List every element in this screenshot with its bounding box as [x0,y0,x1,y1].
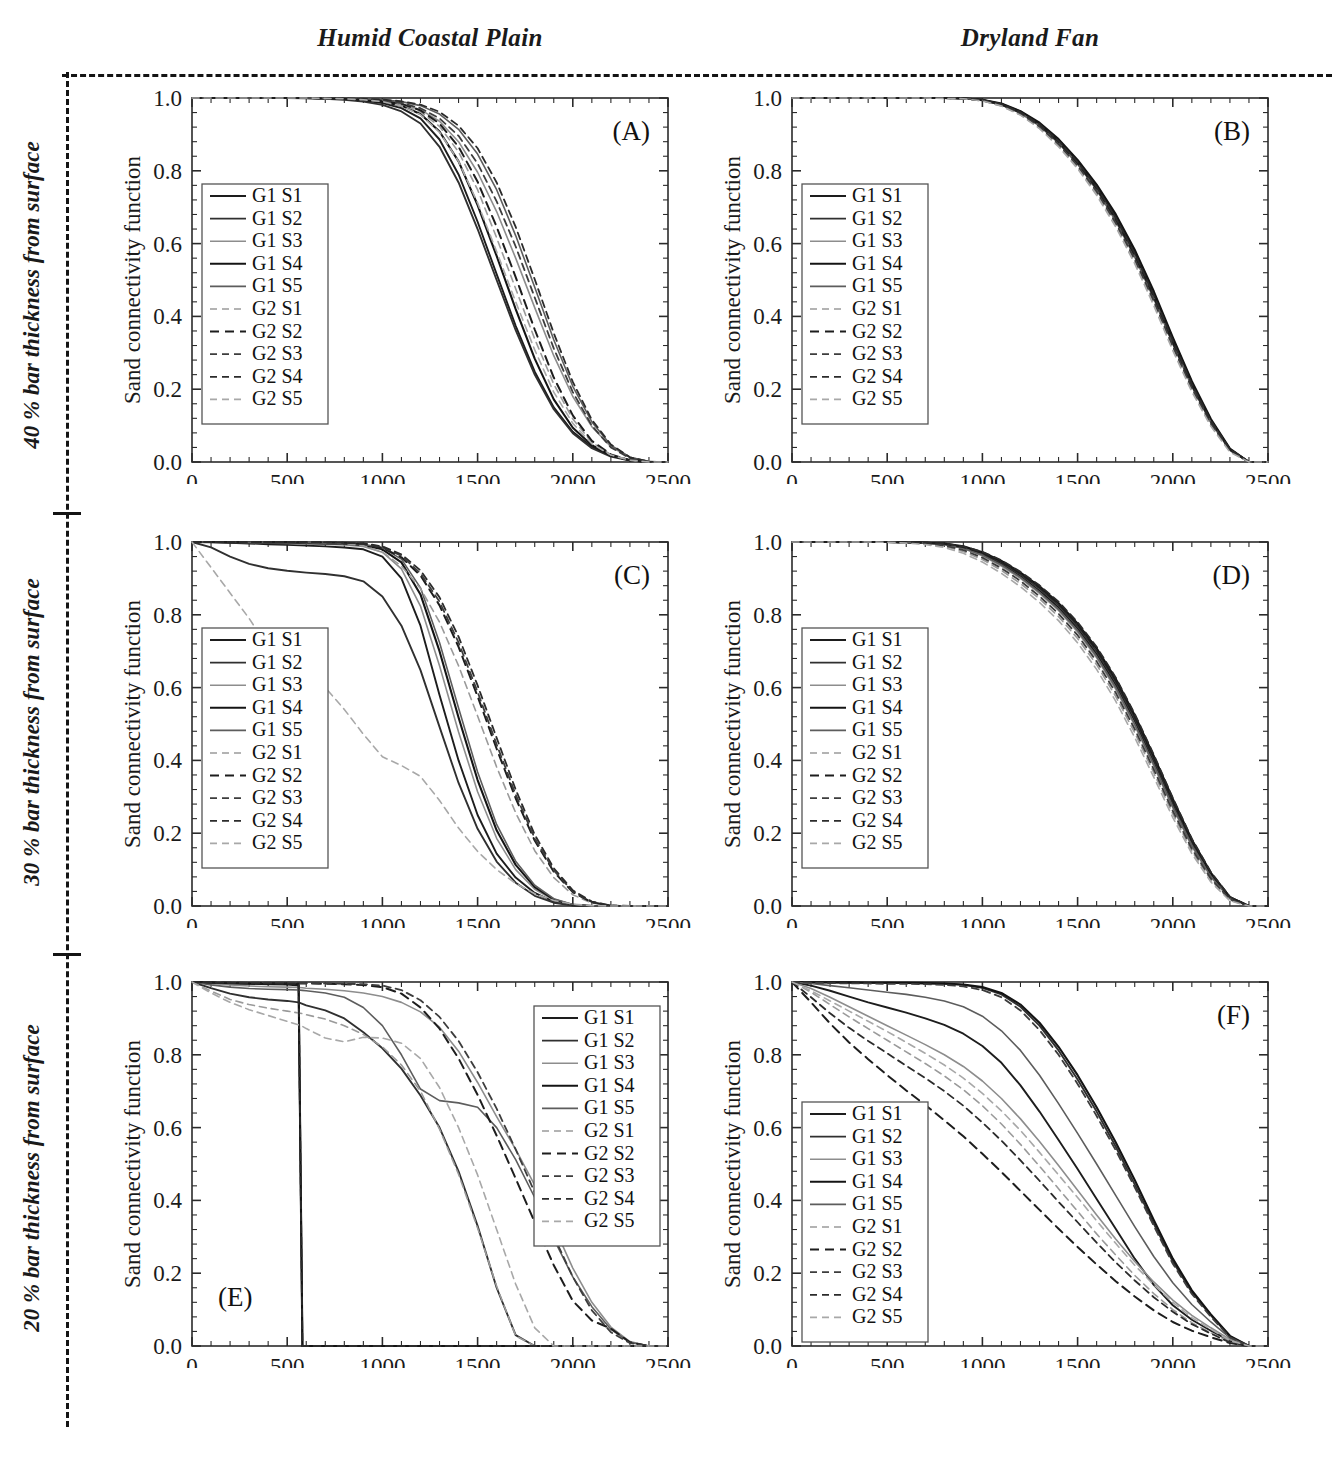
y-tick-label: 0.8 [153,1043,182,1068]
legend-label-g2-s1: G2 S1 [852,297,903,319]
x-tick-label: 2500 [645,1354,691,1368]
divider-tick-row2 [53,953,81,956]
legend: G1 S1G1 S2G1 S3G1 S4G1 S5G2 S1G2 S2G2 S3… [802,628,928,868]
legend-label-g1-s4: G1 S4 [852,1170,903,1192]
y-tick-label: 0.4 [753,304,782,329]
legend-label-g1-s4: G1 S4 [852,696,903,718]
legend-label-g2-s5: G2 S5 [852,1305,903,1327]
chart-svg-c: 050010001500200025000.00.20.40.60.81.0(C… [96,528,696,928]
legend-label-g1-s3: G1 S3 [584,1051,635,1073]
legend-label-g2-s5: G2 S5 [584,1209,635,1231]
legend-label-g2-s4: G2 S4 [584,1187,635,1209]
chart-svg-a: 050010001500200025000.00.20.40.60.81.0(A… [96,84,696,484]
legend-label-g2-s5: G2 S5 [852,831,903,853]
legend-label-g2-s5: G2 S5 [252,831,303,853]
legend-label-g1-s2: G1 S2 [584,1029,635,1051]
row-label-30-percent: 30 % bar thickness from surface [0,516,64,948]
x-tick-label: 0 [186,914,198,928]
y-tick-label: 1.0 [753,86,782,111]
y-axis-title: Sand connectivity function [720,156,745,404]
x-tick-label: 2500 [1245,1354,1291,1368]
y-tick-label: 0.2 [753,377,782,402]
legend-label-g1-s4: G1 S4 [252,252,303,274]
legend-label-g1-s3: G1 S3 [852,1147,903,1169]
legend-label-g1-s3: G1 S3 [852,229,903,251]
legend-label-g1-s5: G1 S5 [852,1192,903,1214]
chart-panel-f: 050010001500200025000.00.20.40.60.81.0(F… [696,968,1296,1368]
legend: G1 S1G1 S2G1 S3G1 S4G1 S5G2 S1G2 S2G2 S3… [802,184,928,424]
y-tick-label: 0.2 [153,821,182,846]
panel-label-e: (E) [218,1282,252,1312]
x-tick-label: 1000 [959,914,1005,928]
legend-label-g2-s2: G2 S2 [252,764,303,786]
y-tick-label: 0.4 [753,748,782,773]
legend-label-g1-s5: G1 S5 [852,718,903,740]
y-tick-label: 0.4 [753,1188,782,1213]
y-tick-label: 0.8 [753,603,782,628]
x-tick-label: 1500 [1055,914,1101,928]
y-tick-label: 0.2 [753,821,782,846]
row-label-20-text: 20 % bar thickness from surface [19,1024,45,1331]
row-label-40-percent: 40 % bar thickness from surface [0,80,64,510]
legend-label-g1-s5: G1 S5 [252,718,303,740]
x-tick-label: 2500 [645,914,691,928]
panel-label-a: (A) [613,116,650,146]
x-tick-label: 2000 [550,914,596,928]
legend-label-g1-s2: G1 S2 [252,207,303,229]
legend-label-g1-s5: G1 S5 [852,274,903,296]
y-tick-label: 0.6 [753,1116,782,1141]
x-tick-label: 2000 [550,1354,596,1368]
x-tick-label: 1000 [959,1354,1005,1368]
y-axis-title: Sand connectivity function [720,1040,745,1288]
legend-label-g1-s4: G1 S4 [252,696,303,718]
legend-label-g2-s2: G2 S2 [852,1238,903,1260]
legend-label-g2-s3: G2 S3 [252,786,303,808]
legend-label-g1-s1: G1 S1 [852,1102,903,1124]
legend-label-g2-s2: G2 S2 [852,320,903,342]
y-tick-label: 0.6 [153,1116,182,1141]
y-tick-label: 0.0 [753,450,782,475]
horizontal-divider-top [62,74,1332,77]
y-tick-label: 0.4 [153,748,182,773]
column-header-humid-coastal-plain: Humid Coastal Plain [190,24,670,58]
legend-label-g1-s1: G1 S1 [852,184,903,206]
legend-label-g1-s4: G1 S4 [584,1074,635,1096]
y-tick-label: 0.4 [153,304,182,329]
legend-label-g2-s3: G2 S3 [852,786,903,808]
x-tick-label: 1500 [455,470,501,484]
legend-label-g2-s1: G2 S1 [852,1215,903,1237]
y-axis-title: Sand connectivity function [120,1040,145,1288]
x-tick-label: 500 [270,470,305,484]
legend-label-g1-s2: G1 S2 [252,651,303,673]
y-tick-label: 0.6 [753,676,782,701]
chart-svg-e: 050010001500200025000.00.20.40.60.81.0(E… [96,968,696,1368]
x-tick-label: 2000 [1150,470,1196,484]
chart-panel-a: 050010001500200025000.00.20.40.60.81.0(A… [96,84,696,484]
x-tick-label: 500 [870,914,905,928]
chart-panel-d: 050010001500200025000.00.20.40.60.81.0(D… [696,528,1296,928]
legend-label-g1-s5: G1 S5 [584,1096,635,1118]
legend-label-g2-s4: G2 S4 [852,809,903,831]
x-tick-label: 0 [786,470,798,484]
y-tick-label: 0.8 [153,603,182,628]
legend: G1 S1G1 S2G1 S3G1 S4G1 S5G2 S1G2 S2G2 S3… [202,628,328,868]
y-tick-label: 0.0 [153,450,182,475]
y-tick-label: 0.6 [753,232,782,257]
row-label-30-text: 30 % bar thickness from surface [19,578,45,885]
y-tick-label: 1.0 [753,970,782,995]
legend-label-g2-s1: G2 S1 [584,1119,635,1141]
panel-label-c: (C) [614,560,650,590]
x-tick-label: 500 [870,470,905,484]
legend-label-g1-s3: G1 S3 [252,229,303,251]
legend: G1 S1G1 S2G1 S3G1 S4G1 S5G2 S1G2 S2G2 S3… [202,184,328,424]
x-tick-label: 2500 [645,470,691,484]
chart-svg-b: 050010001500200025000.00.20.40.60.81.0(B… [696,84,1296,484]
legend-label-g1-s2: G1 S2 [852,651,903,673]
x-tick-label: 1500 [1055,470,1101,484]
x-tick-label: 0 [186,470,198,484]
x-tick-label: 1000 [359,914,405,928]
y-tick-label: 0.2 [153,1261,182,1286]
x-tick-label: 2000 [1150,914,1196,928]
row-label-40-text: 40 % bar thickness from surface [19,141,45,448]
row-label-20-percent: 20 % bar thickness from surface [0,958,64,1398]
